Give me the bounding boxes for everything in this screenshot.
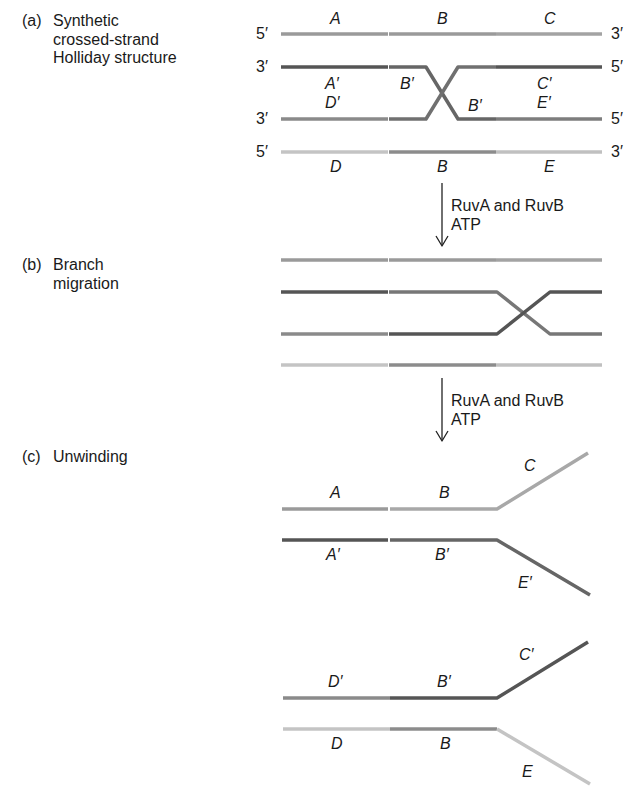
segment-label-e: E	[544, 158, 555, 176]
segment-label-c-prime: C′	[519, 646, 534, 664]
segment-label-a-prime: A′	[325, 75, 339, 93]
segment-label-a: A	[330, 10, 341, 28]
segment-label-c-prime: C′	[537, 75, 552, 93]
end-label: 5′	[611, 110, 623, 128]
step-label-2: RuvA and RuvB ATP	[451, 391, 564, 429]
segment-label-d: D	[331, 735, 343, 753]
end-label: 3′	[611, 25, 623, 43]
segment-label-b: B	[440, 735, 451, 753]
panel-c-duplex-2	[283, 642, 590, 784]
segment-label-d: D	[330, 158, 342, 176]
end-label: 5′	[611, 58, 623, 76]
end-label: 3′	[611, 143, 623, 161]
arrow-down-icon-2	[436, 378, 448, 441]
segment-label-e: E	[522, 763, 533, 781]
panel-c-label: (c)Unwinding	[22, 448, 128, 467]
segment-label-b: B	[439, 484, 450, 502]
segment-label-d-prime: D′	[325, 94, 340, 112]
arrow-down-icon-1	[436, 183, 448, 246]
segment-label-d-prime: D′	[328, 673, 343, 691]
segment-label-b-prime: B′	[437, 673, 451, 691]
panel-a-label: (a)Synthetic crossed-strand Holliday str…	[22, 12, 177, 68]
segment-label-c: C	[524, 457, 536, 475]
segment-label-e-prime: E′	[518, 574, 532, 592]
end-label: 5′	[256, 25, 268, 43]
segment-label-b-prime: B′	[400, 75, 414, 93]
segment-label-e-prime: E′	[537, 94, 551, 112]
segment-label-a-prime: A′	[326, 546, 340, 564]
panel-a-strands	[281, 34, 602, 152]
segment-label-b-prime: B′	[435, 546, 449, 564]
panel-b-label: (b)Branch migration	[22, 256, 119, 293]
end-label: 3′	[256, 58, 268, 76]
step-label-1: RuvA and RuvB ATP	[451, 196, 564, 234]
segment-label-b: B	[437, 10, 448, 28]
panel-c-duplex-1	[282, 453, 590, 595]
end-label: 5′	[256, 143, 268, 161]
panel-b-strands	[281, 260, 602, 365]
segment-label-b: B	[437, 158, 448, 176]
end-label: 3′	[256, 110, 268, 128]
segment-label-c: C	[544, 10, 556, 28]
segment-label-a: A	[330, 484, 341, 502]
segment-label-b-prime: B′	[468, 97, 482, 115]
